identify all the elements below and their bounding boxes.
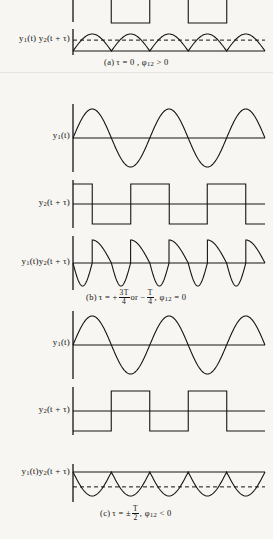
caption-panel-b: (b) τ = +3T4or −T4, φ12 = 0: [86, 289, 186, 305]
label-c-sine: y1(t): [2, 337, 70, 347]
label-text: y2(t + τ): [39, 197, 70, 207]
label-a-product: y1(t) y2(t + τ): [2, 33, 70, 43]
caption-panel-c: (c) τ = ±T2, φ12 < 0: [100, 505, 172, 521]
label-text: y1(t) y2(t + τ): [19, 33, 70, 43]
panel-c-product-rectified-sine: [73, 472, 265, 496]
label-text: y1(t): [53, 130, 70, 140]
panel-a-product-rectified-sine: [73, 34, 265, 51]
label-b-square: y2(t + τ): [2, 197, 70, 207]
label-b-sine: y1(t): [2, 130, 70, 140]
label-text: y1(t)y2(t + τ): [22, 466, 71, 476]
panel-a-square-wave-clipped: [73, 0, 265, 23]
label-c-product: y1(t)y2(t + τ): [2, 466, 70, 476]
label-text: y1(t): [53, 337, 70, 347]
correlation-waveform-figure: [0, 0, 273, 539]
label-text: y1(t)y2(t + τ): [22, 256, 71, 266]
label-text: y2(t + τ): [39, 404, 70, 414]
label-b-product: y1(t)y2(t + τ): [2, 256, 70, 266]
label-c-square: y2(t + τ): [2, 404, 70, 414]
caption-panel-a: (a) τ = 0 , φ12 > 0: [104, 57, 169, 67]
page-divider-top: [0, 72, 273, 73]
